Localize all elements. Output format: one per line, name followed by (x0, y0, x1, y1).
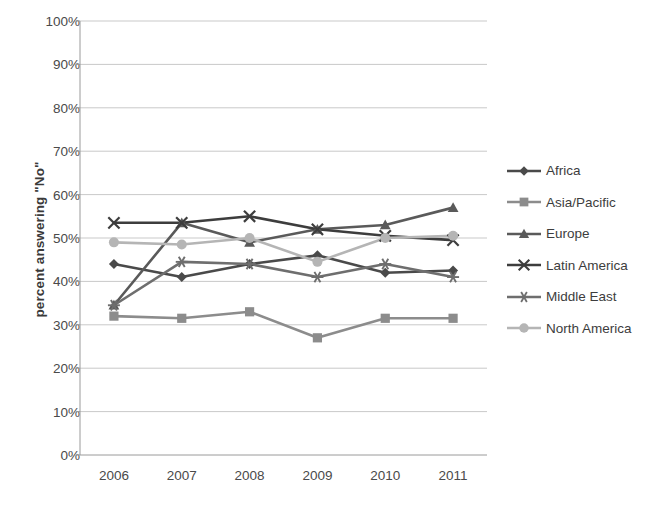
legend-item-africa[interactable]: Africa (505, 155, 645, 187)
data-point-marker (109, 237, 119, 247)
data-point-marker (520, 198, 529, 207)
legend-item-label: Latin America (546, 258, 628, 273)
data-point-marker (312, 257, 322, 267)
legend-item-label: Africa (546, 163, 581, 178)
data-point-marker (177, 272, 187, 282)
data-point-marker (448, 202, 459, 212)
line-chart: percent answering "No" 0%10%20%30%40%50%… (0, 0, 645, 516)
data-point-marker (109, 259, 119, 269)
legend-item-north-america[interactable]: North America (505, 313, 645, 345)
data-point-marker (245, 233, 255, 243)
data-point-marker (311, 272, 323, 282)
data-point-marker (379, 259, 391, 269)
circle-marker-icon (505, 320, 543, 336)
legend-item-label: North America (546, 321, 632, 336)
data-point-marker (177, 240, 187, 250)
data-point-marker (448, 266, 458, 276)
data-point-marker (109, 312, 118, 321)
data-point-marker (313, 333, 322, 342)
data-point-marker (177, 314, 186, 323)
legend-item-label: Asia/Pacific (546, 195, 616, 210)
diamond-marker-icon (505, 163, 543, 179)
data-point-marker (519, 324, 529, 334)
data-point-marker (519, 166, 529, 176)
data-point-marker (380, 268, 390, 278)
legend-item-asia-pacific[interactable]: Asia/Pacific (505, 187, 645, 219)
data-point-marker (518, 292, 529, 302)
asterisk-marker-icon (505, 289, 543, 305)
series-line (114, 262, 453, 305)
legend-item-latin-america[interactable]: Latin America (505, 250, 645, 282)
data-point-marker (381, 314, 390, 323)
series-line (114, 236, 453, 262)
legend-item-europe[interactable]: Europe (505, 218, 645, 250)
x-marker-icon (505, 257, 543, 273)
data-point-marker (448, 314, 457, 323)
legend-item-label: Middle East (546, 289, 617, 304)
data-point-marker (380, 233, 390, 243)
data-point-marker (448, 231, 458, 241)
legend-item-middle-east[interactable]: Middle East (505, 281, 645, 313)
square-marker-icon (505, 194, 543, 210)
data-point-marker (245, 307, 254, 316)
legend-item-label: Europe (546, 226, 590, 241)
triangle-marker-icon (505, 226, 543, 242)
chart-legend: AfricaAsia/PacificEuropeLatin AmericaMid… (505, 155, 645, 344)
